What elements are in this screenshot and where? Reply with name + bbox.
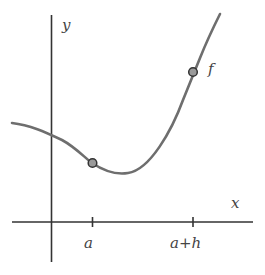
curve-label-f: f [208,62,214,77]
curve-f [12,14,220,174]
function-graph [0,0,265,275]
point-at-a-plus-h [189,68,198,77]
tick-label-a-plus-h: a+h [170,236,201,251]
y-axis-label: y [62,18,70,33]
x-axis-label: x [231,196,239,211]
tick-label-a: a [84,236,93,251]
point-at-a [88,159,97,168]
